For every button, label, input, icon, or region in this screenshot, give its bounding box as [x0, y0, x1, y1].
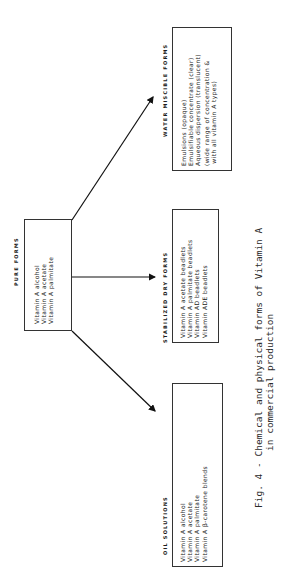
- list-item: Aqueous dispersion (translucent): [194, 54, 201, 166]
- list-item: Vitamin A palmitate beadlets: [186, 239, 193, 338]
- list-item: Vitamin A β-carotene blends: [201, 466, 208, 562]
- list-item: Vitamin A acetate: [40, 257, 47, 324]
- figure-caption: Fig. 4 - Chemical and physical forms of …: [253, 228, 275, 508]
- water-miscible-heading: WATER MISCIBLE FORMS: [162, 44, 168, 137]
- list-item: (wide range of concentration &: [203, 54, 210, 166]
- list-item: Vitamin AD beadlets: [193, 239, 200, 338]
- list-item: Emulsions (opaque): [180, 54, 187, 166]
- pure-forms-box: Vitamin A alcohol Vitamin A acetate Vita…: [24, 219, 72, 331]
- arrow-to-oil-solutions: [72, 331, 155, 411]
- water-miscible-list: Emulsions (opaque) Emulsifiable concentr…: [180, 54, 217, 166]
- stabilized-dry-box: Vitamin A acetate beadlets Vitamin A pal…: [172, 209, 219, 343]
- oil-solutions-box: Vitamin A alcohol Vitamin A acetate Vita…: [172, 383, 223, 567]
- list-item: Emulsifiable concentrate (clear): [187, 54, 194, 166]
- oil-solutions-heading: OIL SOLUTIONS: [162, 496, 168, 555]
- list-item: Vitamin A acetate: [186, 466, 193, 562]
- list-item: Vitamin A palmitate: [193, 466, 200, 562]
- water-miscible-box: Emulsions (opaque) Emulsifiable concentr…: [172, 27, 232, 171]
- list-item: with all vitamin A types): [210, 54, 217, 166]
- list-item: Vitamin A acetate beadlets: [179, 239, 186, 338]
- pure-forms-list: Vitamin A alcohol Vitamin A acetate Vita…: [33, 257, 55, 324]
- pure-forms-heading: PURE FORMS: [13, 237, 19, 286]
- stabilized-dry-heading: STABILIZED DRY FORMS: [162, 252, 168, 343]
- list-item: Vitamin ADE beadlets: [201, 239, 208, 338]
- stabilized-dry-list: Vitamin A acetate beadlets Vitamin A pal…: [179, 239, 208, 338]
- list-item: Vitamin A alcohol: [179, 466, 186, 562]
- caption-line-1: Fig. 4 - Chemical and physical forms of …: [253, 228, 264, 508]
- caption-line-2: in commercial production: [264, 228, 275, 508]
- list-item: Vitamin A palmitate: [47, 257, 54, 324]
- arrow-to-water-miscible: [72, 97, 153, 220]
- list-item: Vitamin A alcohol: [33, 257, 40, 324]
- oil-solutions-list: Vitamin A alcohol Vitamin A acetate Vita…: [179, 466, 208, 562]
